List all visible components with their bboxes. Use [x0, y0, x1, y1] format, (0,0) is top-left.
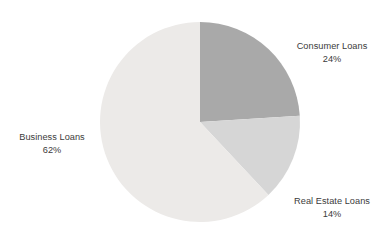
pie-label-business-loans-value: 62% [2, 144, 102, 157]
pie-label-real-estate-loans: Real Estate Loans 14% [278, 195, 386, 220]
pie-chart-figure: Consumer Loans 24% Business Loans 62% Re… [0, 0, 388, 238]
pie-label-consumer-loans: Consumer Loans 24% [280, 40, 384, 65]
pie-label-business-loans: Business Loans 62% [2, 131, 102, 156]
pie-slice-consumer-loans[interactable] [200, 22, 300, 122]
pie-label-consumer-loans-name: Consumer Loans [280, 40, 384, 53]
pie-label-real-estate-loans-name: Real Estate Loans [278, 195, 386, 208]
pie-label-consumer-loans-value: 24% [280, 53, 384, 66]
pie-label-real-estate-loans-value: 14% [278, 208, 386, 221]
pie-label-business-loans-name: Business Loans [2, 131, 102, 144]
